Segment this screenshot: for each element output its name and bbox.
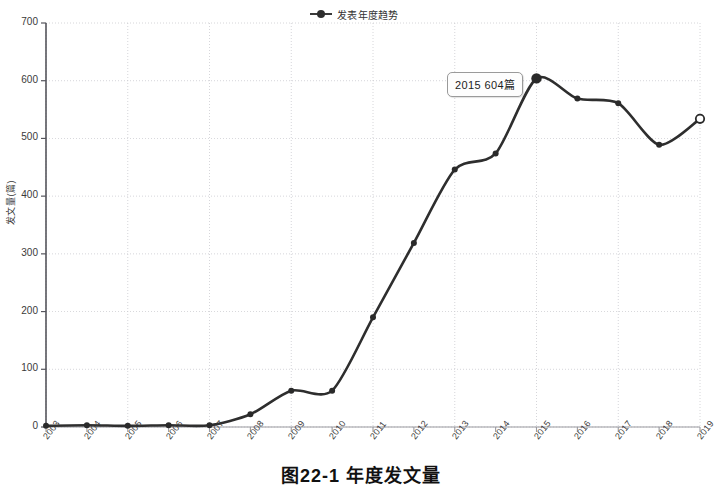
axes (41, 23, 700, 432)
y-axis-tick-label: 0 (6, 420, 38, 431)
y-axis-tick-label: 600 (6, 74, 38, 85)
y-axis-tick-label: 700 (6, 16, 38, 27)
data-points (43, 73, 704, 429)
data-point-tooltip: 2015 604篇 (447, 72, 523, 97)
figure-caption: 图22-1 年度发文量 (0, 461, 722, 487)
grid-lines (46, 23, 700, 427)
y-axis-tick-label: 500 (6, 131, 38, 142)
y-axis-tick-label: 100 (6, 362, 38, 373)
y-axis-tick-label: 200 (6, 305, 38, 316)
y-axis-tick-label: 400 (6, 189, 38, 200)
y-axis-tick-label: 300 (6, 247, 38, 258)
